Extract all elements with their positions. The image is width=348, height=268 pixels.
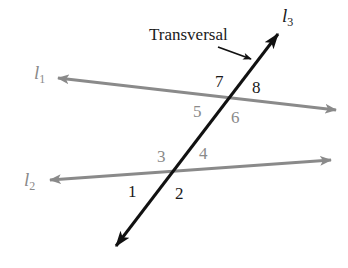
angle-label-7: 7 bbox=[215, 72, 224, 91]
angle-label-3: 3 bbox=[157, 147, 166, 166]
transversal-diagram: Transversal l1 l2 l3 7 8 5 6 3 4 1 2 bbox=[0, 0, 348, 268]
label-l2: l2 bbox=[24, 169, 35, 193]
label-l1: l1 bbox=[34, 62, 45, 86]
angle-label-5: 5 bbox=[193, 102, 202, 121]
line-l2 bbox=[50, 160, 331, 180]
transversal-callout: Transversal bbox=[149, 25, 228, 44]
line-l3-transversal bbox=[116, 34, 278, 246]
label-l3: l3 bbox=[282, 5, 293, 29]
angle-label-2: 2 bbox=[175, 184, 184, 203]
angle-label-8: 8 bbox=[252, 78, 261, 97]
angle-label-6: 6 bbox=[231, 108, 240, 127]
angle-label-4: 4 bbox=[199, 144, 208, 163]
callout-arrow-icon bbox=[218, 47, 251, 59]
angle-label-1: 1 bbox=[128, 182, 137, 201]
